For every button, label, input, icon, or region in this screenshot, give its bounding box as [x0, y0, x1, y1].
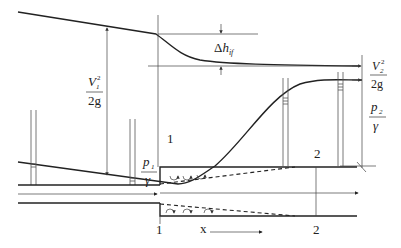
piezometer-tube-1: [31, 110, 36, 185]
eddies-lower: [166, 209, 212, 213]
p1-pressure-head-label: p 1 γ: [141, 154, 157, 187]
svg-text:2: 2: [379, 108, 383, 116]
svg-text:p: p: [142, 154, 150, 169]
svg-text:1: 1: [96, 83, 100, 91]
svg-text:γ: γ: [373, 118, 379, 133]
diagram-canvas: Δhif V 1 2 2g V 2 2 2g p 2 γ p 1 γ: [0, 0, 401, 248]
datum-tick: [357, 162, 366, 172]
dh-label: Δhif: [214, 40, 235, 57]
section-2-bottom-label: 2: [313, 222, 320, 237]
p2-pressure-head-label: p 2 γ: [369, 99, 386, 133]
x-axis-label: x: [200, 221, 207, 236]
piezometer-tube-4: [338, 72, 343, 166]
svg-text:2: 2: [97, 74, 101, 82]
svg-text:2: 2: [380, 67, 384, 75]
sudden-expansion-diagram: Δhif V 1 2 2g V 2 2 2g p 2 γ p 1 γ: [0, 0, 401, 248]
jet-boundary-upper: [160, 167, 295, 184]
svg-text:2: 2: [381, 58, 385, 66]
svg-text:p: p: [370, 99, 378, 114]
svg-text:2g: 2g: [88, 93, 102, 108]
v1-velocity-head-label: V 1 2 2g: [86, 74, 103, 108]
svg-text:2g: 2g: [371, 77, 383, 91]
section-1-bottom-label: 1: [156, 222, 163, 237]
hydraulic-grade-line: [18, 80, 362, 184]
jet-boundary-lower: [160, 204, 295, 216]
piezometer-tube-2: [130, 119, 135, 185]
section-2-top-label: 2: [314, 146, 321, 161]
energy-grade-line: [18, 12, 360, 66]
svg-text:1: 1: [151, 163, 155, 171]
section-1-top-label: 1: [167, 131, 174, 146]
v2-velocity-head-label: V 2 2 2g: [370, 58, 387, 91]
